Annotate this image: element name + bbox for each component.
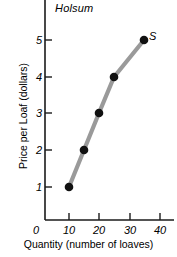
data-point-3 [95, 109, 104, 118]
supply-line [69, 40, 144, 187]
data-point-2 [80, 146, 89, 155]
plot-area [0, 0, 177, 257]
y-axis-ticks [45, 40, 52, 187]
data-point-4 [110, 73, 119, 82]
supply-curve-chart: Holsum S Price per Loaf (dollars) Quanti… [0, 0, 177, 257]
x-axis-ticks [69, 213, 160, 220]
data-point-5 [140, 36, 149, 45]
data-point-1 [65, 183, 74, 192]
